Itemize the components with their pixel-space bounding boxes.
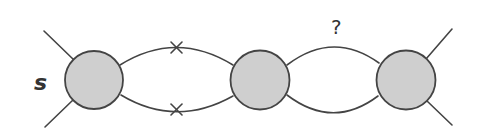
external-leg-left-bottom: [45, 100, 73, 127]
vertex-blob-left: [65, 51, 123, 109]
label-question-mark: ?: [331, 15, 342, 39]
external-leg-right-top: [426, 29, 452, 59]
vertex-blob-right: [377, 51, 436, 110]
external-leg-right-bottom: [427, 101, 452, 125]
label-s: s: [34, 70, 47, 95]
feynman-diagram: s ?: [0, 0, 481, 140]
propagator-left-upper: [120, 48, 233, 66]
propagator-right-upper: [287, 47, 379, 65]
vertex-blob-middle: [231, 51, 290, 110]
propagator-right-lower: [287, 95, 378, 113]
cross-marker-lower-icon: [171, 104, 182, 115]
external-leg-left-top: [44, 31, 74, 60]
